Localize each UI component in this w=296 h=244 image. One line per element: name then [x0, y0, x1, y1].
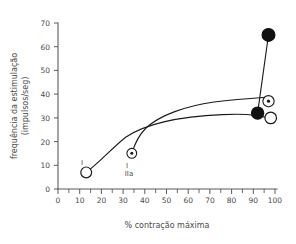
x-tick-label-90: 90 — [249, 196, 259, 205]
marker-open-circle-type-I-high — [265, 112, 277, 124]
x-tick-label-30: 30 — [118, 196, 128, 205]
x-tick-label-60: 60 — [183, 196, 193, 205]
y-tick-label-40: 40 — [40, 90, 50, 99]
marker-filled-circle-type-II-high — [252, 107, 264, 119]
point-label-I-low: I — [81, 159, 83, 167]
x-tick-label-10: 10 — [75, 196, 85, 205]
x-tick-label-50: 50 — [162, 196, 172, 205]
x-tick-label-70: 70 — [205, 196, 215, 205]
y-tick-label-70: 70 — [40, 19, 50, 28]
x-tick-label-100: 100 — [268, 196, 283, 205]
point-label-IIa-mid: IIa — [125, 170, 133, 178]
marker-dot-center-type-I-IIa-high — [267, 100, 270, 103]
marker-open-circle-type-I-low — [81, 167, 92, 178]
point-label-I-mid: I — [126, 162, 128, 170]
y-tick-label-50: 50 — [40, 66, 50, 75]
y-tick-label-20: 20 — [40, 138, 50, 147]
x-axis-title: % contração máxima — [125, 221, 210, 230]
x-tick-label-40: 40 — [140, 196, 150, 205]
x-tick-label-80: 80 — [227, 196, 237, 205]
marker-dot-center-type-I-IIa-mid — [130, 152, 133, 155]
data-markers — [81, 29, 277, 178]
y-tick-label-0: 0 — [45, 185, 50, 194]
curve-type-I — [86, 114, 270, 172]
y-tick-label-10: 10 — [40, 161, 50, 170]
chart-container: 70 60 50 40 30 20 10 0 — [0, 0, 296, 244]
stimulation-frequency-scatter-chart: 70 60 50 40 30 20 10 0 — [0, 0, 296, 244]
x-tick-label-0: 0 — [56, 196, 61, 205]
x-tick-label-20: 20 — [97, 196, 107, 205]
marker-filled-circle-type-II-top — [262, 29, 275, 42]
y-axis-title-line1: frequência da estimulação — [9, 53, 19, 159]
y-tick-label-60: 60 — [40, 43, 50, 52]
y-axis-title-line2: (impulsos/seg) — [21, 77, 30, 136]
y-axis-ticks — [54, 23, 58, 189]
y-tick-label-30: 30 — [40, 114, 50, 123]
